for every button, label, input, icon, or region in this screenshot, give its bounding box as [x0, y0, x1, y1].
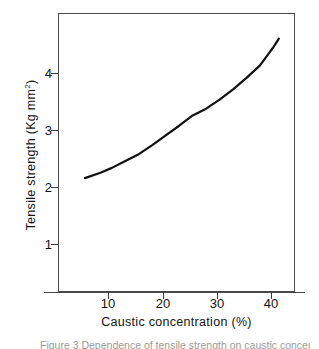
chart-curve-layer [58, 13, 295, 292]
figure-caption: Figure 3 Dependence of tensile strength … [40, 339, 310, 349]
series-line-tensile-strength [85, 39, 279, 179]
x-axis-title: Caustic concentration (%) [58, 315, 295, 329]
x-tick-label-20: 20 [148, 297, 178, 310]
y-tick-label-2: 2 [45, 181, 52, 194]
y-tick-mark-2 [51, 187, 58, 188]
y-tick-label-1: 1 [45, 238, 52, 251]
x-tick-label-30: 30 [202, 297, 232, 310]
y-axis-title-exponent: 2 [23, 84, 32, 89]
x-tick-label-10: 10 [93, 297, 123, 310]
y-tick-mark-4 [51, 73, 58, 74]
x-axis-baseline [44, 292, 305, 293]
y-tick-mark-1 [51, 244, 58, 245]
y-tick-mark-3 [51, 130, 58, 131]
y-axis-title: Tensile strength (Kg mm2) [24, 55, 38, 255]
y-axis-title-paren: ) [24, 80, 38, 84]
x-tick-label-40: 40 [256, 297, 286, 310]
y-tick-label-3: 3 [45, 124, 52, 137]
y-axis-title-text: Tensile strength (Kg mm [24, 89, 38, 231]
y-tick-label-4: 4 [45, 67, 52, 80]
figure-container: 4 3 2 1 10 20 30 40 Tensile strength (Kg… [0, 0, 319, 349]
